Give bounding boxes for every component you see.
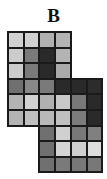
grid-cell-r8-c5 bbox=[86, 156, 103, 173]
grayscale-cell-grid bbox=[0, 0, 107, 179]
